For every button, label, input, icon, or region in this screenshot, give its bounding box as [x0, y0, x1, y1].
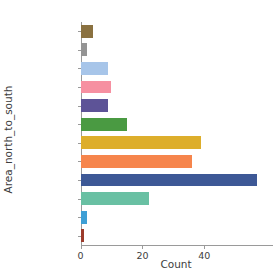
bar-tokyo[interactable] — [81, 25, 93, 38]
x-axis-line — [81, 245, 273, 246]
y-tick-mark — [78, 217, 81, 218]
y-tick-mark — [78, 143, 81, 144]
y-tick-mark — [78, 87, 81, 88]
bar-nagano[interactable] — [81, 118, 127, 131]
x-tick-mark — [204, 246, 205, 249]
bar-aichi[interactable] — [81, 174, 258, 187]
y-tick-mark — [78, 50, 81, 51]
bar-ishikawa[interactable] — [81, 81, 112, 94]
y-tick-mark — [78, 161, 81, 162]
y-tick-mark — [78, 199, 81, 200]
bar-row — [81, 78, 273, 97]
bar-chart-figure: Area_north_to_south TokyoKanagawaToyamaI… — [0, 0, 277, 279]
bar-gifu[interactable] — [81, 136, 202, 149]
bar-shizuoka[interactable] — [81, 155, 192, 168]
y-tick-mark — [78, 236, 81, 237]
bar-row — [81, 208, 273, 227]
bar-row — [81, 226, 273, 245]
bar-row — [81, 115, 273, 134]
bar-kanagawa[interactable] — [81, 43, 87, 56]
bar-row — [81, 152, 273, 171]
x-tick-mark — [142, 246, 143, 249]
y-axis-title: Area_north_to_south — [0, 0, 16, 279]
bar-toyama[interactable] — [81, 62, 109, 75]
plot-area: TokyoKanagawaToyamaIshikawaFukuiNaganoGi… — [81, 22, 273, 245]
bar-mie[interactable] — [81, 192, 149, 205]
bar-row — [81, 134, 273, 153]
bar-row — [81, 22, 273, 41]
bar-osaka[interactable] — [81, 211, 87, 224]
y-tick-mark — [78, 106, 81, 107]
y-tick-mark — [78, 180, 81, 181]
y-tick-mark — [78, 31, 81, 32]
bar-row — [81, 171, 273, 190]
bar-row — [81, 96, 273, 115]
bar-fukui[interactable] — [81, 99, 109, 112]
bar-row — [81, 59, 273, 78]
y-tick-mark — [78, 68, 81, 69]
x-axis-title: Count — [80, 258, 272, 270]
bar-row — [81, 189, 273, 208]
y-tick-mark — [78, 124, 81, 125]
bar-row — [81, 41, 273, 60]
x-tick-mark — [81, 246, 82, 249]
bar-fukuoka[interactable] — [81, 229, 84, 242]
